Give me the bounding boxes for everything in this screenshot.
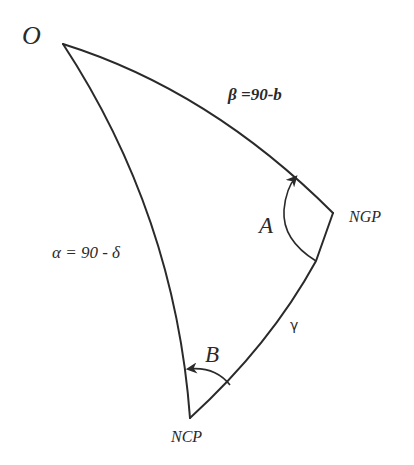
angle-b-label: B xyxy=(205,342,219,367)
vertex-ngp-label: NGP xyxy=(348,208,381,225)
side-gamma-arc xyxy=(190,213,333,418)
angle-b-arc xyxy=(188,369,230,385)
spherical-triangle-diagram: O β =90-b NGP A α = 90 - δ γ B NCP xyxy=(0,0,414,465)
side-beta-arc xyxy=(63,44,333,213)
angle-a-arc xyxy=(284,177,316,261)
vertex-ncp-label: NCP xyxy=(170,428,202,445)
vertex-o-label: O xyxy=(22,21,41,50)
side-alpha-arc xyxy=(63,44,190,418)
side-gamma-label: γ xyxy=(290,317,298,333)
side-alpha-label: α = 90 - δ xyxy=(52,243,121,262)
angle-a-label: A xyxy=(257,213,274,238)
side-beta-label: β =90-b xyxy=(227,85,282,104)
